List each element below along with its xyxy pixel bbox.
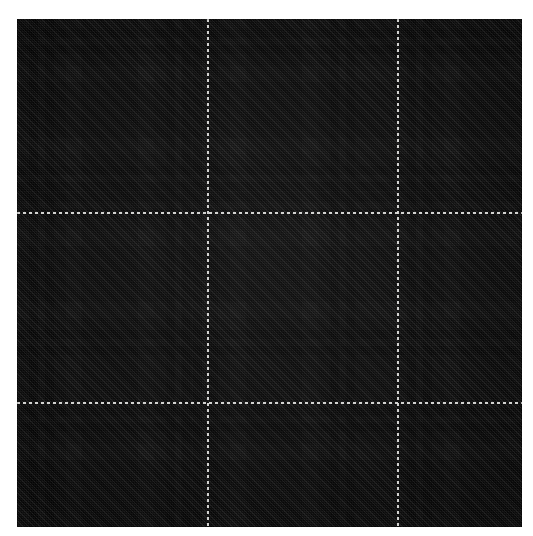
cloth-shading [17, 19, 522, 527]
accent-line-horizontal-1 [17, 212, 522, 214]
accent-line-horizontal-2 [17, 402, 522, 404]
ground-layer [17, 19, 522, 527]
accent-line-vertical-1 [207, 19, 209, 527]
weave-texture [17, 19, 522, 527]
tartan-swatch [17, 19, 522, 527]
warp-stripes [17, 19, 522, 527]
accent-line-vertical-2 [397, 19, 399, 527]
twill-texture [17, 19, 522, 527]
weft-stripes [17, 19, 522, 527]
image-canvas [0, 0, 533, 536]
accent-lines [17, 19, 522, 527]
